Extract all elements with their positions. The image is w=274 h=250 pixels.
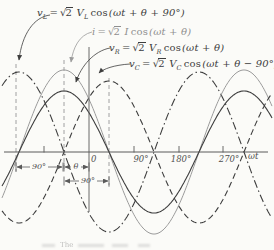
label-vr-formula: vR=√2 VRcos(ωt + θ)	[109, 42, 224, 56]
dim-label-90-right: 90°	[81, 176, 95, 185]
label-vl-formula: vL=√2 VLcos(ωt + θ + 90°)	[37, 7, 185, 21]
axis-label-90: 90°	[133, 154, 148, 164]
caption-smudge	[138, 244, 150, 247]
axis-label-zero: 0	[91, 154, 96, 164]
axis-label-wt: ωt	[248, 151, 258, 161]
dim-label-theta: θ	[74, 162, 79, 171]
leader-vc	[99, 64, 130, 73]
caption-smudge	[42, 244, 55, 247]
label-i-formula: i=√2 Icos(ωt + θ)	[92, 26, 191, 40]
waveform-figure: vL=√2 VLcos(ωt + θ + 90°) i=√2 Icos(ωt +…	[0, 0, 274, 250]
caption-fragment: The	[60, 241, 73, 249]
caption-smudge	[112, 244, 128, 247]
label-vc-formula: vC=√2 VCcos(ωt + θ − 90°)	[129, 58, 274, 72]
leader-vr	[76, 48, 110, 82]
leader-vl	[19, 15, 50, 60]
dim-label-90-left: 90°	[32, 162, 46, 171]
axis-label-270: 270°	[219, 154, 239, 164]
axis-label-180: 180°	[171, 154, 191, 164]
caption-smudge	[78, 244, 104, 247]
